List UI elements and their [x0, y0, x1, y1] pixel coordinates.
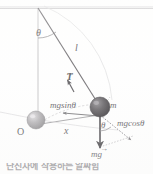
swing-arc-guide [44, 6, 112, 100]
figure-caption: 단진자에 작용하는 알짜힘 [0, 163, 153, 174]
weight-vector-hat: → [100, 145, 108, 153]
label-weight: mg → [91, 150, 102, 159]
pendulum-figure: θ l → T mgsinθ m O x θ mgcosθ mg → 단진자에 … [0, 0, 153, 174]
pendulum-diagram [0, 0, 153, 174]
bob-equilibrium-highlight [30, 114, 35, 118]
ceiling-line [0, 7, 153, 9]
label-length: l [75, 43, 78, 53]
figure-caption-text: 단진자에 작용하는 알짜힘 [6, 163, 99, 172]
bob-displaced-highlight [93, 101, 99, 105]
bob-displaced [90, 97, 110, 117]
pendulum-string-stroke [38, 8, 101, 108]
label-tension-text: T [67, 71, 73, 82]
label-theta-top: θ [36, 28, 41, 38]
label-tension: → T [61, 72, 78, 82]
label-mass: m [110, 101, 117, 110]
bob-equilibrium [27, 111, 45, 129]
label-displacement: x [64, 126, 68, 136]
label-mg-sin-theta: mgsinθ [50, 101, 76, 110]
label-mg-cos-theta: mgcosθ [117, 119, 144, 128]
label-origin: O [17, 127, 24, 137]
label-theta-bottom: θ [101, 121, 105, 130]
